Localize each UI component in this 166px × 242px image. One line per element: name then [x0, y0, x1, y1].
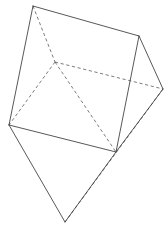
diagram-background [0, 0, 166, 242]
geometry-diagram [0, 0, 166, 242]
figure-canvas [0, 0, 166, 242]
